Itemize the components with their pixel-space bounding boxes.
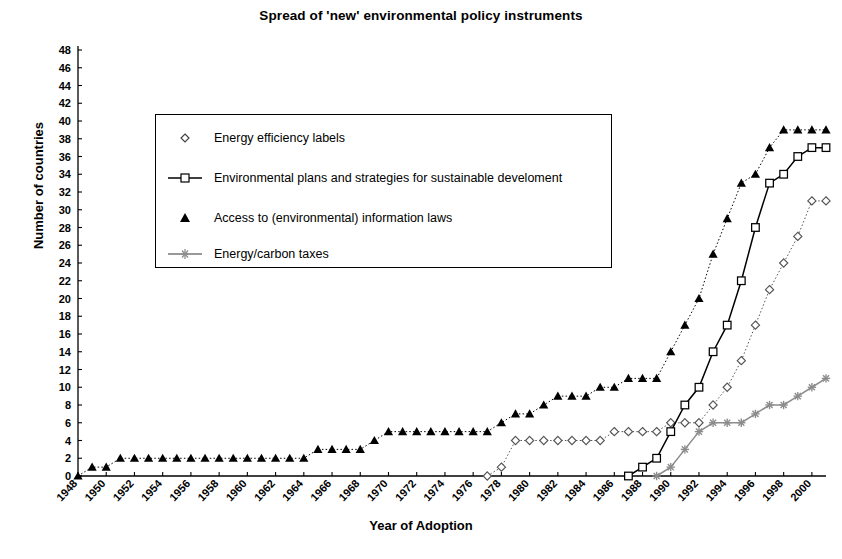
y-tick-label: 8 (65, 399, 71, 411)
x-tick-label: 1988 (619, 477, 644, 503)
x-tick-label: 1956 (167, 477, 192, 503)
x-tick-label: 1966 (308, 477, 333, 503)
y-tick-label: 14 (59, 346, 72, 358)
legend-key-square-icon (156, 163, 214, 193)
x-tick-label: 1968 (336, 477, 361, 503)
chart-container: Spread of 'new' environmental policy ins… (0, 0, 842, 559)
y-tick-label: 46 (59, 62, 71, 74)
y-tick-label: 44 (59, 80, 72, 92)
x-tick-label: 1978 (477, 477, 502, 503)
y-tick-label: 28 (59, 222, 71, 234)
y-tick-label: 24 (59, 257, 72, 269)
x-tick-label: 1948 (54, 477, 79, 503)
y-tick-label: 16 (59, 328, 71, 340)
x-tick-label: 2000 (788, 477, 813, 503)
x-tick-label: 1986 (590, 477, 615, 503)
legend-item-energy-efficiency-labels: Energy efficiency labels (156, 123, 611, 153)
legend-label-1: Environmental plans and strategies for s… (214, 171, 562, 185)
y-tick-label: 6 (65, 417, 71, 429)
y-tick-label: 36 (59, 151, 71, 163)
legend-item-energy-carbon-taxes: Energy/carbon taxes (156, 239, 611, 269)
x-tick-label: 1970 (364, 477, 389, 503)
x-tick-label: 1974 (421, 477, 447, 504)
legend-item-access-information-laws: Access to (environmental) information la… (156, 203, 611, 233)
x-tick-label: 1984 (562, 477, 588, 504)
x-tick-label: 1960 (223, 477, 248, 503)
x-tick-label: 1962 (252, 477, 277, 503)
series-3 (652, 374, 830, 480)
y-tick-label: 40 (59, 115, 71, 127)
legend-item-environmental-plans: Environmental plans and strategies for s… (156, 163, 611, 193)
legend-key-diamond-icon (156, 123, 214, 153)
y-tick-label: 48 (59, 44, 71, 56)
x-tick-label: 1998 (760, 477, 785, 503)
x-tick-label: 1980 (506, 477, 531, 503)
x-tick-label: 1996 (731, 477, 756, 503)
x-tick-label: 1994 (703, 477, 729, 504)
y-tick-label: 32 (59, 186, 71, 198)
x-tick-label: 1950 (82, 477, 107, 503)
y-tick-label: 26 (59, 239, 71, 251)
y-tick-label: 22 (59, 275, 71, 287)
plot-area: 0246810121416182022242628303234363840424… (0, 0, 842, 559)
y-tick-label: 4 (65, 435, 72, 447)
y-tick-label: 42 (59, 97, 71, 109)
y-tick-label: 34 (59, 168, 72, 180)
x-tick-label: 1990 (647, 477, 672, 503)
legend-label-0: Energy efficiency labels (214, 131, 345, 145)
legend-label-3: Energy/carbon taxes (214, 247, 329, 261)
x-tick-label: 1982 (534, 477, 559, 503)
x-tick-label: 1972 (393, 477, 418, 503)
x-tick-label: 1952 (110, 477, 135, 503)
y-tick-label: 2 (65, 452, 71, 464)
y-tick-label: 38 (59, 133, 71, 145)
y-tick-label: 18 (59, 310, 71, 322)
y-tick-label: 20 (59, 293, 71, 305)
x-tick-label: 1964 (280, 477, 306, 504)
x-tick-label: 1992 (675, 477, 700, 503)
x-tick-label: 1976 (449, 477, 474, 503)
y-tick-label: 30 (59, 204, 71, 216)
y-tick-label: 12 (59, 364, 71, 376)
y-tick-label: 10 (59, 381, 71, 393)
x-tick-label: 1958 (195, 477, 220, 503)
chart-legend: Energy efficiency labels Environmental p… (155, 114, 612, 268)
legend-key-star-icon (156, 239, 214, 269)
legend-label-2: Access to (environmental) information la… (214, 211, 452, 225)
legend-key-triangle-icon (156, 203, 214, 233)
x-tick-label: 1954 (139, 477, 165, 504)
